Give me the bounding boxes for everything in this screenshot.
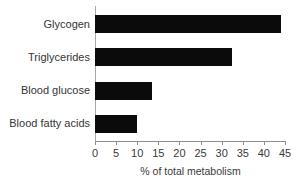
bar-row: [95, 8, 285, 41]
y-axis-label-1: Triglycerides: [28, 50, 90, 64]
x-axis-tick: [201, 141, 202, 145]
bar-chart-figure: Glycogen Triglycerides Blood glucose Blo…: [0, 0, 299, 185]
bar-blood-glucose[interactable]: [95, 82, 152, 100]
x-axis-tick: [285, 141, 286, 145]
bar-triglycerides[interactable]: [95, 48, 232, 66]
x-axis-tick: [95, 141, 96, 145]
x-axis-tick-label: 0: [92, 147, 98, 160]
x-axis-tick-label: 25: [194, 147, 206, 160]
x-axis-tick: [116, 141, 117, 145]
bar-glycogen[interactable]: [95, 15, 281, 33]
x-axis-tick-label: 10: [131, 147, 143, 160]
y-axis-label-3: Blood fatty acids: [9, 116, 90, 130]
x-axis-tick: [179, 141, 180, 145]
x-axis-tick-label: 40: [258, 147, 270, 160]
x-axis-tick-label: 30: [216, 147, 228, 160]
x-axis-tick-label: 5: [113, 147, 119, 160]
x-axis-tick: [158, 141, 159, 145]
y-axis-label-0: Glycogen: [44, 17, 90, 31]
bar-row: [95, 41, 285, 74]
x-axis-tick-label: 35: [237, 147, 249, 160]
x-axis-tick-label: 20: [173, 147, 185, 160]
x-axis-tick-label: 15: [152, 147, 164, 160]
bar-row: [95, 108, 285, 141]
x-axis-title: % of total metabolism: [95, 165, 286, 177]
bar-blood-fatty-acids[interactable]: [95, 115, 137, 133]
x-axis-tick: [243, 141, 244, 145]
plot-area: [95, 8, 285, 141]
y-axis-label-2: Blood glucose: [21, 83, 90, 97]
y-axis-category-labels: Glycogen Triglycerides Blood glucose Blo…: [0, 8, 90, 141]
x-axis-tick: [222, 141, 223, 145]
bar-row: [95, 75, 285, 108]
x-axis-tick-label: 45: [279, 147, 291, 160]
x-axis-tick: [264, 141, 265, 145]
x-axis-line: [95, 141, 286, 142]
x-axis-tick: [137, 141, 138, 145]
